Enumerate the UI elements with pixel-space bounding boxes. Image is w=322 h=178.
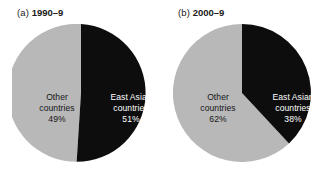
panel-b-east-line2: countries — [259, 103, 322, 114]
panel-b-label-east-asian-countries: East Asian countries 38% — [259, 92, 322, 126]
panel-b-other-line2: countries — [187, 103, 249, 114]
panel-b-tag: (b) — [178, 7, 190, 18]
panel-b-period: 2000–9 — [193, 7, 225, 18]
panel-a-east-line1: East Asian — [97, 92, 165, 103]
panel-a-east-value: 51% — [97, 114, 165, 125]
panel-a-label-east-asian-countries: East Asian countries 51% — [97, 92, 165, 126]
panel-b-label-other-countries: Other countries 62% — [187, 92, 249, 126]
pie-panel-b: (b) 2000–9 Other countries 62% East Asia… — [161, 0, 322, 178]
panel-a-tag: (a) — [17, 7, 29, 18]
panel-b-east-value: 38% — [259, 114, 322, 125]
panel-b-pie: Other countries 62% East Asian countries… — [173, 24, 311, 162]
panel-a-pie: Other countries 49% East Asian countries… — [12, 24, 150, 162]
panel-b-other-line1: Other — [187, 92, 249, 103]
panel-b-east-line1: East Asian — [259, 92, 322, 103]
panel-b-title: (b) 2000–9 — [178, 7, 224, 18]
panel-a-other-value: 49% — [26, 114, 88, 125]
panel-a-other-line2: countries — [26, 103, 88, 114]
panel-a-period: 1990–9 — [32, 7, 64, 18]
panel-a-other-line1: Other — [26, 92, 88, 103]
figure-two-pie-charts: (a) 1990–9 Other countries 49% East Asia… — [0, 0, 322, 178]
panel-b-other-value: 62% — [187, 114, 249, 125]
pie-panel-a: (a) 1990–9 Other countries 49% East Asia… — [0, 0, 161, 178]
panel-a-label-other-countries: Other countries 49% — [26, 92, 88, 126]
panel-a-east-line2: countries — [97, 103, 165, 114]
panel-a-title: (a) 1990–9 — [17, 7, 63, 18]
